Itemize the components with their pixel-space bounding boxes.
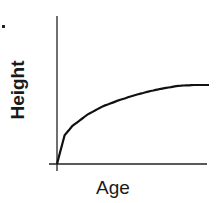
x-axis-label: Age (96, 177, 130, 199)
y-axis-label: Height (7, 60, 29, 119)
growth-curve (57, 85, 209, 164)
growth-chart (0, 0, 223, 203)
